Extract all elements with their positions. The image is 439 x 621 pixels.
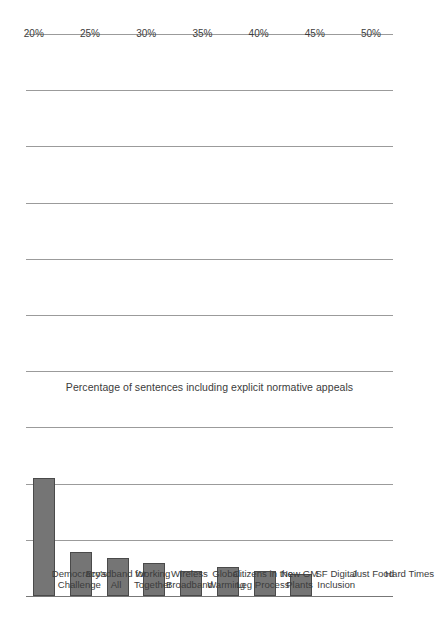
gridline-40	[26, 146, 393, 147]
value-tick-label: 20%	[12, 28, 56, 39]
gridline-25	[26, 315, 393, 316]
value-tick-label: 35%	[180, 28, 224, 39]
gridline-20	[26, 371, 393, 372]
value-tick-label: 25%	[68, 28, 112, 39]
category-label: Democracy'sChallenge	[44, 569, 114, 590]
gridline-10	[26, 484, 393, 485]
value-tick-label: 40%	[237, 28, 281, 39]
axis-baseline	[26, 596, 393, 597]
value-tick-label: 30%	[124, 28, 168, 39]
gridline-30	[26, 259, 393, 260]
gridline-35	[26, 203, 393, 204]
gridline-45	[26, 90, 393, 91]
value-tick-label: 45%	[293, 28, 337, 39]
plot-area	[26, 34, 393, 596]
gridline-5	[26, 540, 393, 541]
value-tick-label: 50%	[349, 28, 393, 39]
gridline-15	[26, 427, 393, 428]
